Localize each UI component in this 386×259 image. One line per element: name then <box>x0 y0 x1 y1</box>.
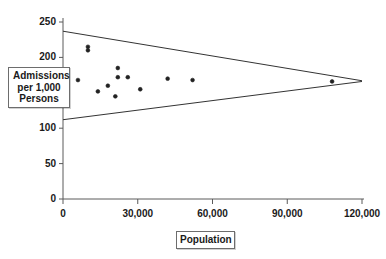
control-limit-lines <box>63 31 362 120</box>
x-tick-label: 120,000 <box>327 208 386 219</box>
y-axis-title: Admissions per 1,000 Persons <box>8 67 70 108</box>
y-tick-label: 50 <box>14 158 56 169</box>
y-tick-label: 0 <box>14 193 56 204</box>
y-tick-label: 200 <box>14 51 56 62</box>
axis-ticks <box>59 22 362 204</box>
data-point <box>116 66 120 70</box>
plot-canvas <box>0 0 386 259</box>
data-point <box>138 87 142 91</box>
x-tick-label: 30,000 <box>103 208 173 219</box>
data-point <box>106 84 110 88</box>
data-point <box>126 75 130 79</box>
data-point <box>76 78 80 82</box>
data-point <box>191 78 195 82</box>
x-axis-title: Population <box>176 231 235 249</box>
funnel-plot-chart: 050100200250 030,00060,00090,000120,000 … <box>0 0 386 259</box>
data-point <box>113 94 117 98</box>
data-point <box>96 89 100 93</box>
x-tick-label: 0 <box>28 208 98 219</box>
y-tick-label: 100 <box>14 122 56 133</box>
upper-control-limit-line <box>63 31 362 81</box>
y-tick-label: 250 <box>14 16 56 27</box>
data-point <box>330 80 334 84</box>
axes-group <box>63 18 364 199</box>
data-point <box>86 48 90 52</box>
data-point <box>116 75 120 79</box>
x-tick-label: 90,000 <box>252 208 322 219</box>
data-point <box>166 77 170 81</box>
x-tick-label: 60,000 <box>178 208 248 219</box>
data-point <box>86 45 90 49</box>
